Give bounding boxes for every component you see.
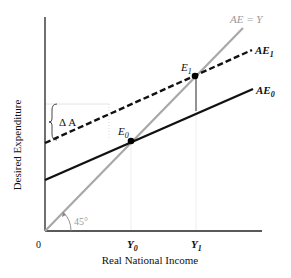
origin-label: 0 — [36, 239, 41, 250]
delta-a-label: Δ A — [59, 116, 76, 128]
y-axis-label: Desired Expenditure — [11, 100, 23, 191]
ae0-line — [45, 89, 253, 180]
ae1-label: AE1 — [254, 44, 274, 59]
keynesian-cross-diagram: Δ A 45° E0 E1 AE = Y AE1 AE0 0 Y0 Y1 Rea… — [0, 0, 291, 278]
ae-equals-y-label: AE = Y — [229, 13, 264, 25]
ae0-label: AE0 — [255, 84, 275, 99]
e1-point — [192, 73, 199, 80]
delta-a-bracket-icon — [49, 104, 57, 140]
e1-label: E1 — [180, 61, 192, 76]
e0-label: E0 — [117, 125, 129, 140]
y0-tick-label: Y0 — [127, 238, 138, 253]
x-axis-label: Real National Income — [102, 254, 199, 266]
y1-tick-label: Y1 — [191, 238, 202, 253]
angle-label: 45° — [74, 216, 88, 227]
ae1-line — [45, 50, 252, 143]
